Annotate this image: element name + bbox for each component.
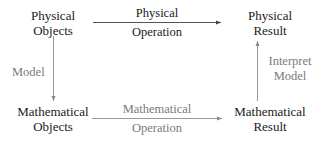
edge-interpret-model-line1: Interpret xyxy=(262,54,318,69)
edge-interpret-model-label: Interpret Model xyxy=(262,54,318,84)
node-physical-result-line2: Result xyxy=(230,23,310,38)
node-mathematical-result-line1: Mathematical xyxy=(220,104,320,119)
edge-model-label: Model xyxy=(12,65,45,80)
edge-physical-operation-above: Physical xyxy=(107,6,207,21)
edge-interpret-model-line2: Model xyxy=(262,69,318,84)
node-physical-objects-line2: Objects xyxy=(13,23,93,38)
edge-physical-operation-below: Operation xyxy=(107,25,207,40)
node-physical-result-line1: Physical xyxy=(230,8,310,23)
node-physical-result: Physical Result xyxy=(230,8,310,38)
node-mathematical-result: Mathematical Result xyxy=(220,104,320,134)
node-mathematical-result-line2: Result xyxy=(220,119,320,134)
edge-mathematical-operation-above: Mathematical xyxy=(107,102,207,117)
edge-mathematical-operation-below: Operation xyxy=(107,121,207,136)
node-mathematical-objects: Mathematical Objects xyxy=(3,104,103,134)
node-physical-objects-line1: Physical xyxy=(13,8,93,23)
node-physical-objects: Physical Objects xyxy=(13,8,93,38)
node-mathematical-objects-line1: Mathematical xyxy=(3,104,103,119)
node-mathematical-objects-line2: Objects xyxy=(3,119,103,134)
